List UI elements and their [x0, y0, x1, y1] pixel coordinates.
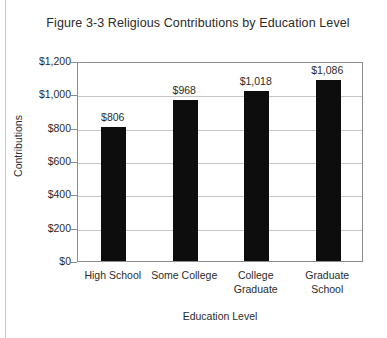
bar-value-label: $1,018 [216, 75, 296, 87]
chart-page: Figure 3-3 Religious Contributions by Ed… [0, 0, 387, 338]
y-axis-tick-label: $0 [11, 255, 71, 267]
bar-value-label: $968 [144, 84, 224, 96]
x-axis-category-line: Graduate [282, 268, 372, 282]
y-axis-tick-mark [71, 262, 77, 263]
y-axis-tick-label: $400 [11, 188, 71, 200]
y-axis-tick-label: $1,000 [11, 88, 71, 100]
bar [101, 127, 126, 261]
bar [244, 91, 269, 261]
y-axis-tick-label: $600 [11, 155, 71, 167]
bar-value-label: $806 [73, 111, 153, 123]
page-edge-line [5, 0, 6, 338]
y-axis-tick-label: $200 [11, 222, 71, 234]
bar-value-label: $1,086 [287, 64, 367, 76]
y-axis-tick-label: $800 [11, 122, 71, 134]
y-axis-tick-label: $1,200 [11, 55, 71, 67]
x-axis-category-line: School [282, 282, 372, 296]
x-axis-title: Education Level [77, 310, 363, 322]
bar [316, 80, 341, 261]
x-axis-category-label: GraduateSchool [282, 268, 372, 296]
bar [173, 100, 198, 261]
chart-title: Figure 3-3 Religious Contributions by Ed… [18, 16, 378, 30]
